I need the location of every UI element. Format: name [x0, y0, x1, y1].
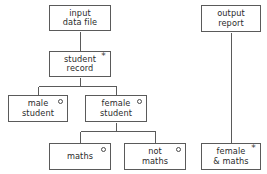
jsp-structure-diagram: input data file student record * male st… — [0, 0, 267, 174]
node-maths[interactable]: maths — [49, 143, 111, 170]
node-label-female-student: female student — [98, 99, 134, 117]
node-not-maths[interactable]: not maths — [124, 143, 186, 170]
node-label-input-data-file: input data file — [61, 9, 99, 27]
node-input-data-file[interactable]: input data file — [49, 5, 111, 31]
connector-student-branch — [39, 78, 117, 96]
node-label-output-report: output report — [215, 9, 247, 27]
node-output-report[interactable]: output report — [201, 5, 261, 32]
selection-circle-icon — [101, 147, 106, 152]
node-label-not-maths: not maths — [140, 147, 170, 165]
node-label-male-student: male student — [20, 99, 56, 117]
selection-circle-icon — [176, 147, 181, 152]
node-male-student[interactable]: male student — [8, 95, 68, 122]
node-label-student-record: student record — [62, 55, 98, 73]
node-label-maths: maths — [65, 152, 95, 161]
node-female-student[interactable]: female student — [85, 95, 147, 122]
node-label-female-and-maths: female & maths — [211, 147, 250, 165]
selection-circle-icon — [137, 99, 142, 104]
node-student-record[interactable]: student record * — [49, 51, 111, 77]
iteration-asterisk-icon: * — [250, 144, 257, 152]
node-female-and-maths[interactable]: female & maths * — [201, 143, 261, 170]
iteration-asterisk-icon: * — [100, 52, 107, 60]
selection-circle-icon — [58, 99, 63, 104]
connector-female-branch — [81, 123, 156, 144]
